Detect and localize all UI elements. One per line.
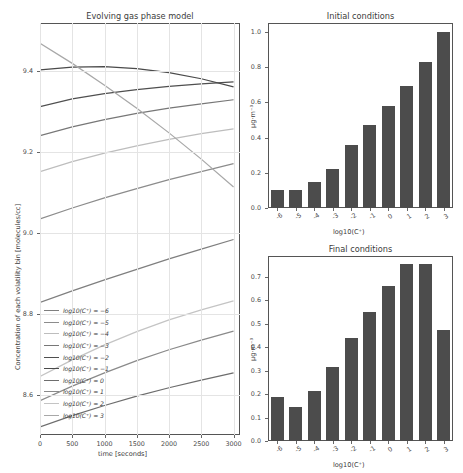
initial-bar [419, 62, 432, 208]
left-x-tick: 0 [38, 440, 42, 448]
final-x-tickmark [296, 441, 297, 444]
final-x-tickmark [277, 441, 278, 444]
legend-item-label: log10(C⁺) = 0 [63, 377, 104, 384]
final-bar [308, 391, 321, 441]
final-x-tickmark [314, 441, 315, 444]
final-y-tick: 0.2 [251, 390, 261, 398]
final-bar [345, 338, 358, 441]
initial-y-tick: 0.8 [251, 63, 261, 71]
final-bar [289, 407, 302, 441]
left-y-axis-label: Concentration of each volatility bin [mo… [14, 204, 22, 370]
legend-line-swatch [44, 333, 59, 334]
final-x-tick: 0 [387, 445, 395, 454]
legend-item-label: log10(C⁺) = −5 [63, 319, 109, 326]
legend-item-0: log10(C⁺) = −6 [44, 305, 109, 317]
final-y-tickmark [265, 394, 268, 395]
legend-item-label: log10(C⁺) = 3 [63, 412, 104, 419]
final-bar [271, 397, 284, 441]
final-y-tick: 0.5 [251, 320, 261, 328]
left-horizontal-gridline [40, 233, 240, 234]
initial-x-tickmark [296, 208, 297, 211]
final-x-tickmark [407, 441, 408, 444]
initial-bar [326, 169, 339, 208]
left-x-tick: 500 [66, 440, 78, 448]
legend-item-4: log10(C⁺) = −2 [44, 351, 109, 363]
final-x-tick: 1 [405, 445, 413, 454]
left-y-tickmark [37, 152, 40, 153]
initial-x-tick: -5 [293, 211, 303, 221]
final-y-tickmark [265, 324, 268, 325]
left-y-tickmark [37, 314, 40, 315]
final-x-tickmark [351, 441, 352, 444]
final-chart-title: Final conditions [268, 244, 453, 254]
final-x-tick: -2 [349, 444, 359, 454]
initial-chart-title: Initial conditions [268, 11, 453, 21]
left-x-tick: 1500 [129, 440, 145, 448]
legend-item-label: log10(C⁺) = 2 [63, 400, 104, 407]
initial-x-tickmark [333, 208, 334, 211]
legend-line-swatch [44, 368, 59, 369]
left-vertical-gridline [169, 23, 170, 435]
legend-line-swatch [44, 415, 59, 416]
final-bar [382, 286, 395, 441]
final-x-tick: 3 [442, 445, 450, 454]
left-x-tick: 1000 [96, 440, 112, 448]
initial-y-tickmark [265, 208, 268, 209]
legend-line-swatch [44, 310, 59, 311]
initial-y-tick: 0.4 [251, 134, 261, 142]
final-x-tickmark [333, 441, 334, 444]
left-y-tickmark [37, 233, 40, 234]
final-x-tick: -6 [275, 444, 285, 454]
legend-item-9: log10(C⁺) = 3 [44, 409, 109, 421]
initial-y-tick: 1.0 [251, 28, 261, 36]
left-x-tickmark [72, 435, 73, 438]
legend-line-swatch [44, 403, 59, 404]
initial-x-tick: -6 [275, 211, 285, 221]
final-y-tick: 0.6 [251, 296, 261, 304]
initial-bar [289, 190, 302, 208]
legend-item-label: log10(C⁺) = −2 [63, 354, 109, 361]
initial-x-tickmark [388, 208, 389, 211]
final-x-tickmark [425, 441, 426, 444]
initial-y-tickmark [265, 102, 268, 103]
legend-item-label: log10(C⁺) = 1 [63, 388, 104, 395]
final-bar [419, 264, 432, 441]
legend-line-swatch [44, 357, 59, 358]
initial-y-tickmark [265, 173, 268, 174]
left-vertical-gridline [234, 23, 235, 435]
final-x-tick: -5 [293, 444, 303, 454]
initial-x-tickmark [444, 208, 445, 211]
left-x-tickmark [234, 435, 235, 438]
final-x-tick: -4 [312, 444, 322, 454]
legend-line-swatch [44, 322, 59, 323]
final-y-tick: 0.1 [251, 414, 261, 422]
final-x-tick: 2 [424, 445, 432, 454]
final-y-axis-label: μg·m⁻³ [249, 338, 257, 361]
legend-item-1: log10(C⁺) = −5 [44, 317, 109, 329]
initial-x-tickmark [314, 208, 315, 211]
left-chart-legend: log10(C⁺) = −6log10(C⁺) = −5log10(C⁺) = … [44, 305, 109, 421]
initial-x-tick: -2 [349, 211, 359, 221]
left-x-tickmark [137, 435, 138, 438]
initial-y-tickmark [265, 138, 268, 139]
legend-item-5: log10(C⁺) = −1 [44, 363, 109, 375]
left-y-tick: 8.8 [23, 310, 33, 318]
initial-y-tickmark [265, 67, 268, 68]
initial-x-tickmark [425, 208, 426, 211]
left-x-tick: 2000 [161, 440, 177, 448]
left-y-tick: 8.6 [23, 391, 33, 399]
final-bar [363, 312, 376, 441]
left-y-tick: 9.2 [23, 148, 33, 156]
final-bar [437, 330, 450, 441]
initial-bar [382, 106, 395, 208]
initial-y-tick: 0.2 [251, 169, 261, 177]
initial-bar [308, 182, 321, 208]
left-x-tick: 3000 [225, 440, 241, 448]
initial-x-tick: 0 [387, 212, 395, 221]
final-x-tickmark [388, 441, 389, 444]
initial-bar [345, 145, 358, 208]
legend-item-label: log10(C⁺) = −6 [63, 307, 109, 314]
legend-line-swatch [44, 345, 59, 346]
final-x-tick: -3 [330, 444, 340, 454]
left-vertical-gridline [201, 23, 202, 435]
